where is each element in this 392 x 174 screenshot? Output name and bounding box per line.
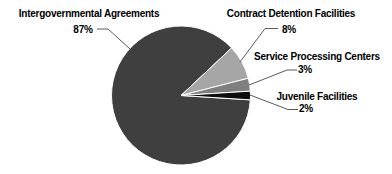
leader-line-service-processing-centers: [249, 70, 297, 85]
pie-chart: Intergovernmental Agreements87%Contract …: [0, 0, 392, 174]
pie-chart-figure: Intergovernmental Agreements87%Contract …: [0, 0, 392, 174]
slice-label-service-processing-centers: Service Processing Centers: [254, 51, 380, 62]
slice-value-juvenile-facilities: 2%: [299, 103, 313, 114]
leader-line-intergovernmental-agreements: [97, 29, 130, 49]
slice-label-intergovernmental-agreements: Intergovernmental Agreements: [19, 8, 160, 19]
slice-value-intergovernmental-agreements: 87%: [73, 24, 93, 35]
slice-label-contract-detention-facilities: Contract Detention Facilities: [227, 8, 356, 19]
slice-value-service-processing-centers: 3%: [298, 64, 312, 75]
slice-value-contract-detention-facilities: 8%: [282, 24, 296, 35]
slice-label-juvenile-facilities: Juvenile Facilities: [277, 91, 359, 102]
